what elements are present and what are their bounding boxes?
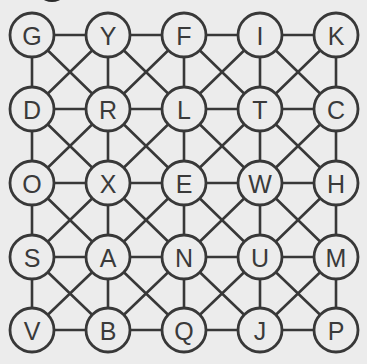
node-circle[interactable] <box>10 235 54 279</box>
letter-node[interactable]: K <box>314 13 358 57</box>
letter-node[interactable]: S <box>10 235 54 279</box>
node-circle[interactable] <box>86 235 130 279</box>
letter-node[interactable]: T <box>238 87 282 131</box>
letter-node[interactable]: P <box>314 308 358 352</box>
letter-node[interactable]: Y <box>86 13 130 57</box>
letter-node[interactable]: U <box>238 235 282 279</box>
node-circle[interactable] <box>162 87 206 131</box>
letter-node[interactable]: L <box>162 87 206 131</box>
letter-node[interactable]: W <box>238 161 282 205</box>
letter-node[interactable]: M <box>314 235 358 279</box>
letter-node[interactable]: C <box>314 87 358 131</box>
letter-node[interactable]: Q <box>162 308 206 352</box>
node-circle[interactable] <box>162 13 206 57</box>
letter-node[interactable]: G <box>10 13 54 57</box>
letter-node[interactable]: J <box>238 308 282 352</box>
node-circle[interactable] <box>314 235 358 279</box>
node-circle[interactable] <box>238 235 282 279</box>
letter-node[interactable]: V <box>10 308 54 352</box>
letter-node[interactable]: R <box>86 87 130 131</box>
node-circle[interactable] <box>86 161 130 205</box>
letter-node[interactable]: A <box>86 235 130 279</box>
node-circle[interactable] <box>162 235 206 279</box>
letter-node[interactable]: E <box>162 161 206 205</box>
node-circle[interactable] <box>238 308 282 352</box>
node-circle[interactable] <box>314 161 358 205</box>
node-circle[interactable] <box>10 87 54 131</box>
letter-node[interactable]: O <box>10 161 54 205</box>
letter-node[interactable]: F <box>162 13 206 57</box>
letter-node[interactable]: I <box>238 13 282 57</box>
node-circle[interactable] <box>314 308 358 352</box>
node-circle[interactable] <box>314 87 358 131</box>
partial-header-mark <box>43 0 61 2</box>
letter-node[interactable]: D <box>10 87 54 131</box>
node-circle[interactable] <box>86 308 130 352</box>
letter-node[interactable]: B <box>86 308 130 352</box>
letter-node[interactable]: N <box>162 235 206 279</box>
node-circle[interactable] <box>162 308 206 352</box>
node-circle[interactable] <box>86 13 130 57</box>
node-circle[interactable] <box>10 308 54 352</box>
letter-grid-puzzle: GYFIKDRLTCOXEWHSANUMVBQJP <box>0 0 367 364</box>
node-circle[interactable] <box>314 13 358 57</box>
node-circle[interactable] <box>10 13 54 57</box>
node-circle[interactable] <box>238 161 282 205</box>
node-circle[interactable] <box>162 161 206 205</box>
node-circle[interactable] <box>10 161 54 205</box>
letter-node[interactable]: X <box>86 161 130 205</box>
letter-node[interactable]: H <box>314 161 358 205</box>
node-circle[interactable] <box>238 13 282 57</box>
node-circle[interactable] <box>238 87 282 131</box>
node-circle[interactable] <box>86 87 130 131</box>
